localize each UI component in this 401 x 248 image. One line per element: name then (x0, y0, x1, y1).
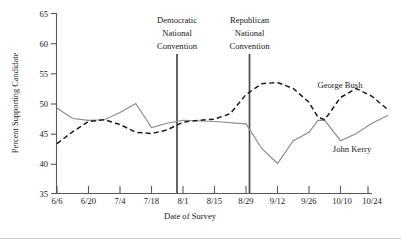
y-axis-ticks (51, 14, 57, 194)
x-tick-label: 8/29 (238, 196, 253, 206)
rnc-label-line-1: Republican (230, 15, 270, 25)
series-line-john-kerry (57, 104, 388, 164)
rnc-label-line-3: Convention (229, 41, 270, 51)
dnc-label-line-2: National (162, 28, 192, 38)
x-axis-ticks (57, 186, 368, 194)
x-axis-tick-labels: 6/6 6/20 7/4 7/18 8/1 8/15 8/29 9/12 9/2… (52, 196, 383, 206)
republican-national-convention-annotation: Republican National Convention (229, 15, 270, 51)
rnc-label-line-2: National (235, 28, 265, 38)
y-tick-label: 65 (39, 9, 48, 19)
y-tick-label: 60 (39, 39, 48, 49)
y-tick-label: 35 (39, 189, 48, 199)
y-axis-tick-labels: 65 60 55 50 45 40 35 (39, 9, 48, 199)
y-tick-label: 40 (39, 159, 48, 169)
y-tick-label: 50 (39, 99, 48, 109)
x-tick-label: 10/24 (362, 196, 382, 206)
series-label-john-kerry: John Kerry (333, 144, 372, 154)
y-tick-label: 45 (39, 129, 48, 139)
x-tick-label: 7/18 (144, 196, 159, 206)
chart-figure: 65 60 55 50 45 40 35 6/6 6/20 7/4 (0, 0, 401, 248)
chart-svg: 65 60 55 50 45 40 35 6/6 6/20 7/4 (0, 0, 401, 248)
x-tick-label: 10/10 (332, 196, 352, 206)
x-tick-label: 6/20 (81, 196, 96, 206)
series-line-george-bush (57, 83, 388, 144)
y-axis-title: Percent Supporting Candidate (11, 52, 20, 153)
x-tick-label: 8/15 (207, 196, 222, 206)
x-tick-label: 8/1 (178, 196, 189, 206)
x-tick-label: 9/12 (270, 196, 285, 206)
x-tick-label: 7/4 (115, 196, 127, 206)
y-tick-label: 55 (39, 69, 48, 79)
x-tick-label: 6/6 (52, 196, 64, 206)
series-label-george-bush: George Bush (318, 80, 364, 90)
democratic-national-convention-annotation: Democratic National Convention (157, 15, 198, 51)
dnc-label-line-3: Convention (157, 41, 198, 51)
x-axis-title: Date of Survey (164, 211, 217, 221)
dnc-label-line-1: Democratic (157, 15, 197, 25)
x-tick-label: 9/26 (301, 196, 317, 206)
